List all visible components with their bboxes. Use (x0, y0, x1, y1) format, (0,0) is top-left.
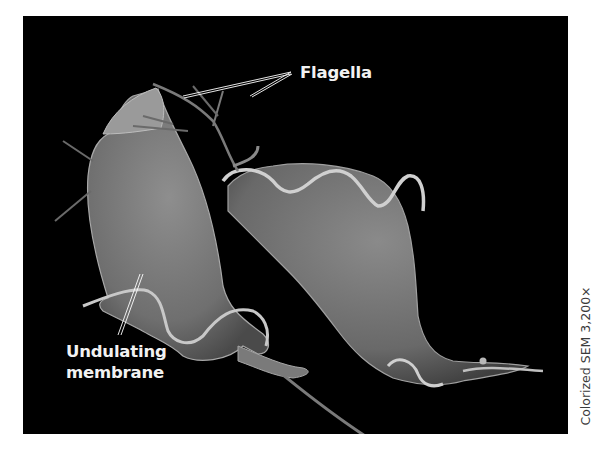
sem-micrograph: Flagella Undulating membrane (23, 16, 568, 434)
magnification-caption: Colorized SEM 3,200× (578, 286, 593, 425)
undulating-membrane-label-line2: membrane (66, 362, 167, 383)
flagella-leader-lines (183, 72, 292, 98)
undulating-membrane-label-line1: Undulating (66, 341, 167, 362)
figure-caption-cropped (23, 455, 323, 465)
flagella-label: Flagella (300, 62, 372, 83)
undulating-membrane-label: Undulating membrane (66, 341, 167, 383)
figure: Flagella Undulating membrane Colorized S… (0, 0, 608, 465)
